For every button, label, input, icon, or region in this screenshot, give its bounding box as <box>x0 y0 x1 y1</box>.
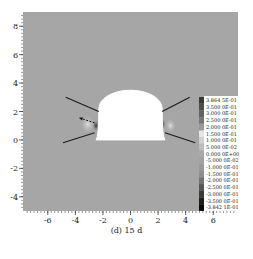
legend-label: -1.500 0E-01 <box>206 171 239 177</box>
legend-swatch <box>199 177 204 184</box>
legend-label: 3.500 0E-01 <box>206 104 237 110</box>
contour-plot: -6-4-20246-4-202468 3.864 5E-013.500 0E-… <box>0 0 253 259</box>
x-tick-label: -6 <box>44 216 52 225</box>
legend-swatch <box>199 104 204 111</box>
figure-caption: (d) 15 d <box>0 226 253 235</box>
legend-swatch <box>199 204 204 211</box>
legend-label: -3.842 1E-01 <box>206 204 239 210</box>
y-tick-label: 6 <box>13 51 18 60</box>
legend: 3.864 5E-013.500 0E-013.000 0E-012.500 0… <box>199 96 252 211</box>
y-tick-label: -4 <box>10 193 18 202</box>
y-tick-label: 0 <box>13 136 18 145</box>
legend-label: 2.500 0E-01 <box>206 117 237 123</box>
legend-label: -3.500 0E-01 <box>206 198 239 204</box>
legend-swatch <box>199 131 204 138</box>
legend-label: -2.000 0E-01 <box>206 177 239 183</box>
x-tick-label: 4 <box>183 216 188 225</box>
legend-swatch <box>199 191 204 198</box>
legend-label: 1.000 0E-01 <box>206 137 237 143</box>
legend-label: 2.000 0E-01 <box>206 124 237 130</box>
y-tick-label: -2 <box>10 164 18 173</box>
tunnel-opening <box>96 90 165 140</box>
x-tick-label: 6 <box>211 216 216 225</box>
legend-label: 3.000 0E-01 <box>206 110 237 116</box>
legend-swatch <box>199 117 204 124</box>
legend-label: 5.000 0E-02 <box>206 144 237 150</box>
x-tick-label: 0 <box>128 216 133 225</box>
legend-swatch <box>199 164 204 171</box>
legend-swatch <box>199 184 204 191</box>
legend-swatch <box>199 151 204 158</box>
y-tick-label: 2 <box>13 108 18 117</box>
legend-swatch <box>199 171 204 178</box>
legend-swatch <box>199 124 204 131</box>
legend-label: -3.000 0E-01 <box>206 191 239 197</box>
legend-label: 1.500 0E-01 <box>206 131 237 137</box>
x-tick-label: -4 <box>71 216 79 225</box>
legend-label: 0.000 0E+00 <box>206 151 239 157</box>
legend-swatch <box>199 144 204 151</box>
legend-label: -2.500 0E-01 <box>206 184 239 190</box>
y-tick-label: 8 <box>13 22 18 31</box>
x-tick-label: -2 <box>99 216 107 225</box>
legend-swatch <box>199 110 204 117</box>
legend-swatch <box>199 97 204 104</box>
legend-swatch <box>199 157 204 164</box>
legend-swatch <box>199 198 204 205</box>
x-tick-label: 2 <box>156 216 161 225</box>
legend-label: -5.000 0E-02 <box>206 157 239 163</box>
y-tick-label: 4 <box>13 79 18 88</box>
legend-label: -1.000 0E-01 <box>206 164 239 170</box>
legend-swatch <box>199 137 204 144</box>
legend-label: 3.864 5E-01 <box>206 97 237 103</box>
